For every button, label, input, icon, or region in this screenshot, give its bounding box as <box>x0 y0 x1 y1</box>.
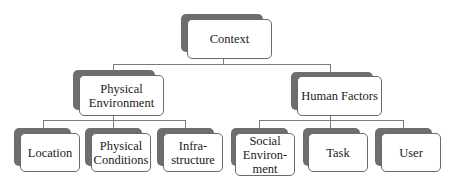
node-label-line: Social <box>243 134 287 148</box>
node-label-line: Environment <box>89 96 154 110</box>
node-label: Human Factors <box>301 89 378 103</box>
node-label-line: Infra- <box>171 139 215 153</box>
node-box-infrastructure: Infra- structure <box>163 133 223 172</box>
node-box-physical-environment: Physical Environment <box>79 75 164 116</box>
node-box-social-environment: Social Environ- ment <box>235 133 295 176</box>
node-box-user: User <box>381 133 441 172</box>
node-label-line: ment <box>243 162 287 176</box>
node-label: User <box>399 146 423 160</box>
node-label-line: Physical <box>89 82 154 96</box>
node-label: Task <box>326 146 349 160</box>
connector-to-location <box>43 120 44 128</box>
node-label-line: structure <box>171 153 215 167</box>
connector-to-user <box>403 120 404 128</box>
node-box-human-factors: Human Factors <box>297 76 382 116</box>
node-label: Location <box>28 146 72 160</box>
node-label-line: Conditions <box>94 153 149 167</box>
node-box-context: Context <box>187 19 272 59</box>
connector-to-social-environment <box>259 120 260 128</box>
connector-to-task <box>330 120 331 128</box>
connector-level1-horizontal <box>113 64 331 65</box>
connector-to-infrastructure <box>185 120 186 128</box>
node-label-line: Environ- <box>243 148 287 162</box>
node-box-physical-conditions: Physical Conditions <box>91 133 151 172</box>
node-label-line: Physical <box>94 139 149 153</box>
node-box-task: Task <box>308 133 368 172</box>
node-box-location: Location <box>20 133 80 172</box>
node-label: Context <box>210 32 250 46</box>
connector-to-physical-conditions <box>113 120 114 128</box>
connector-physical-env-horizontal <box>43 120 186 121</box>
connector-human-factors-horizontal <box>259 120 404 121</box>
